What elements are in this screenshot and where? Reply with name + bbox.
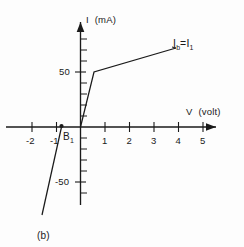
breakdown-point-label-sub: 1 xyxy=(70,137,74,144)
curve-label-ib-i1: Ib=I1 xyxy=(173,38,193,51)
y-axis-title-unit: (mA) xyxy=(95,14,116,25)
x-tick-label-5: 5 xyxy=(200,136,205,146)
x-axis-group xyxy=(6,122,216,132)
x-tick-label--2: -2 xyxy=(26,136,35,146)
x-axis-title-unit: (volt) xyxy=(198,106,220,117)
y-axis-group xyxy=(75,22,87,205)
curve-label-sub-2: 1 xyxy=(190,44,194,51)
figure-caption: (b) xyxy=(37,231,50,241)
curve-forward-conduction xyxy=(81,48,177,127)
y-tick-label--50: -50 xyxy=(55,177,69,187)
x-tick-label--1: -1 xyxy=(50,136,59,146)
x-tick-label-1: 1 xyxy=(102,136,107,146)
plot-canvas xyxy=(0,0,244,247)
y-tick-label-50: 50 xyxy=(59,67,70,77)
x-tick-label-2: 2 xyxy=(127,136,132,146)
breakdown-point-label-main: B xyxy=(63,131,70,142)
y-axis-title-symbol: I xyxy=(86,14,89,25)
x-axis-title-symbol: V xyxy=(186,106,193,117)
breakdown-point-label: B1 xyxy=(63,132,74,144)
y-axis-arrowhead xyxy=(77,22,85,32)
figure-container: I (mA) V (volt) -2 -1 1 2 3 4 5 50 -50 B… xyxy=(0,0,244,247)
x-axis-title: V (volt) xyxy=(186,107,221,117)
y-axis-title: I (mA) xyxy=(86,15,116,25)
x-axis-arrowhead xyxy=(206,123,216,131)
x-tick-label-3: 3 xyxy=(151,136,156,146)
breakdown-point-marker xyxy=(59,124,63,128)
x-tick-label-4: 4 xyxy=(176,136,181,146)
